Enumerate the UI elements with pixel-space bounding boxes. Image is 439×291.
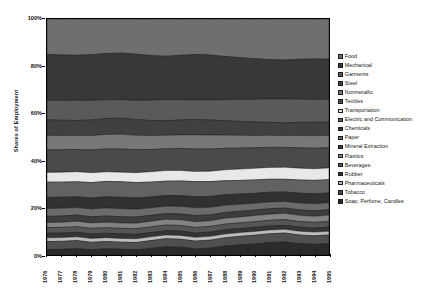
plot-area [46,18,330,256]
x-tick-mark [210,254,211,257]
legend-swatch [338,154,343,159]
legend-item[interactable]: Paper [338,133,438,142]
y-tick-mark [42,256,45,257]
legend-swatch [338,54,343,59]
legend-item-label: Soap, Perfume, Candles [345,197,404,206]
chart-legend: FoodMechanicalGarmentsSteelNonmetallicTe… [338,52,438,206]
x-tick-label: 1994 [311,271,317,283]
legend-item-label: Chemicals [345,124,370,133]
x-tick-label: 1985 [177,271,183,283]
x-tick-mark [315,254,316,257]
stacked-area-svg [47,19,329,255]
legend-item-label: Pharmaceuticals [345,179,385,188]
legend-swatch [338,127,343,132]
y-axis-ticks: 0%20%40%60%80%100% [14,0,42,291]
legend-item[interactable]: Chemicals [338,124,438,133]
legend-swatch [338,109,343,114]
x-tick-mark [270,254,271,257]
legend-item[interactable]: Pharmaceuticals [338,179,438,188]
legend-swatch [338,63,343,68]
legend-item[interactable]: Garments [338,70,438,79]
legend-item-label: Textiles [345,97,363,106]
legend-swatch [338,99,343,104]
x-tick-mark [225,254,226,257]
x-tick-mark [255,254,256,257]
y-tick-mark [42,208,45,209]
legend-item-label: Nonmetallic [345,88,373,97]
legend-item-label: Mineral Extraction [345,142,388,151]
legend-item[interactable]: Plastics [338,152,438,161]
x-tick-label: 1984 [162,271,168,283]
legend-item-label: Steel [345,79,357,88]
y-tick-mark [42,66,45,67]
x-tick-mark [240,254,241,257]
x-tick-label: 1987 [207,271,213,283]
x-tick-label: 1988 [222,271,228,283]
x-tick-label: 1982 [132,271,138,283]
chart-figure: Shares of Employment 0%20%40%60%80%100% … [0,0,439,291]
x-tick-label: 1991 [266,271,272,283]
x-tick-label: 1979 [87,271,93,283]
y-tick-label: 60% [16,110,42,116]
legend-swatch [338,81,343,86]
x-tick-mark [61,254,62,257]
legend-item-label: Food [345,52,357,61]
legend-swatch [338,199,343,204]
x-tick-label: 1983 [147,271,153,283]
x-tick-label: 1990 [251,271,257,283]
legend-item-label: Electric and Communication [345,115,412,124]
x-tick-mark [106,254,107,257]
legend-item[interactable]: Rubber [338,170,438,179]
legend-item[interactable]: Food [338,52,438,61]
legend-item[interactable]: Nonmetallic [338,88,438,97]
x-tick-label: 1993 [296,271,302,283]
legend-item[interactable]: Electric and Communication [338,115,438,124]
area-band [47,19,329,60]
x-tick-mark [300,254,301,257]
x-tick-label: 1989 [237,271,243,283]
x-tick-mark [46,254,47,257]
legend-item[interactable]: Steel [338,79,438,88]
x-tick-label: 1980 [102,271,108,283]
legend-item-label: Transportation [345,106,380,115]
x-tick-mark [285,254,286,257]
legend-item[interactable]: Beverages [338,161,438,170]
legend-swatch [338,190,343,195]
legend-item-label: Rubber [345,170,363,179]
x-tick-mark [121,254,122,257]
y-tick-mark [42,113,45,114]
legend-item[interactable]: Soap, Perfume, Candles [338,197,438,206]
x-tick-label: 1977 [57,271,63,283]
x-tick-label: 1978 [72,271,78,283]
x-tick-mark [136,254,137,257]
legend-swatch [338,172,343,177]
legend-item[interactable]: Mechanical [338,61,438,70]
legend-item[interactable]: Textiles [338,97,438,106]
legend-swatch [338,163,343,168]
legend-swatch [338,145,343,150]
x-tick-mark [91,254,92,257]
x-tick-mark [166,254,167,257]
legend-item-label: Plastics [345,152,364,161]
legend-item-label: Tobacco [345,188,365,197]
legend-item-label: Garments [345,70,369,79]
x-tick-mark [330,254,331,257]
y-tick-label: 40% [16,158,42,164]
y-tick-label: 0% [16,253,42,259]
y-tick-label: 20% [16,205,42,211]
y-tick-label: 100% [16,15,42,21]
legend-item[interactable]: Mineral Extraction [338,142,438,151]
x-tick-label: 1995 [326,271,332,283]
x-tick-mark [76,254,77,257]
y-tick-mark [42,161,45,162]
x-axis-ticks: 1976197719781979198019811982198319841985… [46,257,330,291]
y-tick-label: 80% [16,63,42,69]
legend-item[interactable]: Transportation [338,106,438,115]
area-band [47,53,329,100]
legend-item[interactable]: Tobacco [338,188,438,197]
x-tick-mark [181,254,182,257]
legend-swatch [338,90,343,95]
area-band [47,99,329,123]
legend-item-label: Beverages [345,161,371,170]
x-tick-mark [151,254,152,257]
